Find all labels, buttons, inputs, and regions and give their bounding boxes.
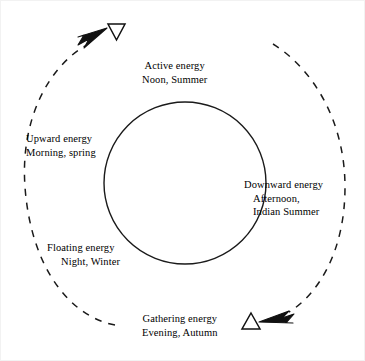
label-floating-energy-line1: Floating energy	[47, 241, 120, 255]
label-floating-energy: Floating energy Night, Winter	[47, 241, 120, 268]
inner-circle	[104, 102, 266, 264]
label-gathering-energy: Gathering energy Evening, Autumn	[142, 312, 218, 339]
label-downward-energy-line3: Indian Summer	[244, 205, 323, 219]
yang-triangle-up-icon	[242, 313, 260, 329]
label-active-energy: Active energy Noon, Summer	[142, 59, 207, 86]
label-floating-energy-line2: Night, Winter	[47, 255, 120, 269]
label-gathering-energy-line2: Evening, Autumn	[142, 326, 218, 340]
label-downward-energy: Downward energy Afternoon, Indian Summer	[244, 178, 323, 219]
label-downward-energy-line2: Afternoon,	[244, 192, 323, 206]
label-downward-energy-line1: Downward energy	[244, 178, 323, 192]
energy-cycle-diagram: Active energy Noon, Summer Upward energy…	[0, 0, 365, 361]
label-upward-energy-line1: Upward energy	[26, 132, 96, 146]
label-upward-energy: Upward energy Morning, spring	[26, 132, 96, 159]
label-gathering-energy-line1: Gathering energy	[142, 312, 218, 326]
label-upward-energy-line2: Morning, spring	[26, 146, 96, 160]
arrowhead-up-left	[78, 28, 107, 48]
yin-triangle-down-icon	[108, 24, 125, 40]
label-active-energy-line1: Active energy	[142, 59, 207, 73]
label-active-energy-line2: Noon, Summer	[142, 73, 207, 87]
left-dashed-arc	[24, 46, 115, 325]
arrowhead-down-right	[259, 311, 294, 323]
